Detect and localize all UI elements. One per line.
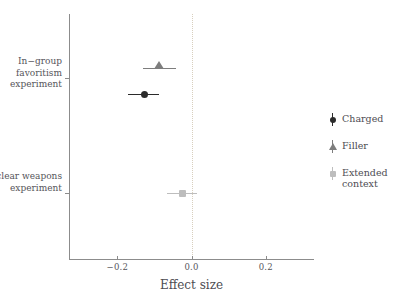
legend-key-marker [330, 117, 336, 123]
legend-item[interactable]: Charged [326, 113, 406, 126]
legend-key-triangle-icon [326, 140, 340, 153]
legend-label: Charged [340, 113, 383, 124]
data-point-triangle [154, 61, 164, 69]
legend-key-marker [330, 171, 336, 177]
x-tick-mark [192, 256, 193, 260]
legend-key-square-icon [326, 167, 340, 180]
legend-label: Filler [340, 140, 368, 151]
y-tick-label-nuclear: Nuclear weapons experiment [0, 171, 62, 194]
legend-label: Extended context [340, 167, 388, 189]
y-tick-mark [65, 193, 69, 194]
y-tick-label-ingroup: In−group favoritism experiment [0, 56, 62, 91]
legend-item[interactable]: Extended context [326, 167, 406, 189]
y-tick-mark [65, 78, 69, 79]
zero-reference-line [192, 14, 194, 259]
legend-key-marker [329, 143, 337, 150]
legend-item[interactable]: Filler [326, 140, 406, 153]
x-tick-label: −0.2 [97, 262, 137, 272]
x-tick-label: 0.0 [172, 262, 212, 272]
x-tick-mark [117, 256, 118, 260]
y-axis-line [69, 14, 70, 259]
x-tick-label: 0.2 [246, 262, 286, 272]
x-tick-mark [266, 256, 267, 260]
data-point-square [179, 190, 186, 197]
legend-key-circle-icon [326, 113, 340, 126]
x-axis-title: Effect size [69, 278, 314, 292]
legend: ChargedFillerExtended context [326, 113, 406, 203]
data-point-circle [141, 91, 148, 98]
forest-plot-chart: −0.20.00.2 In−group favoritism experimen… [0, 0, 407, 303]
